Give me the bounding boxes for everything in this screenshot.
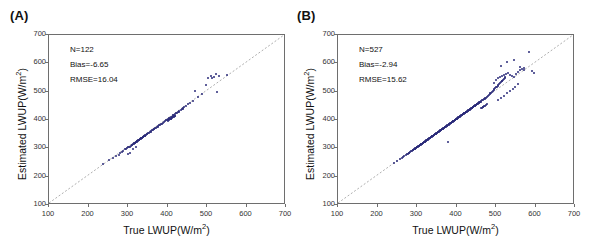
panel-b-y-tick-label: 400 <box>313 114 335 123</box>
panel-a-x-tick-label: 500 <box>191 209 221 218</box>
panel-b-stat-rmse: RMSE=15.62 <box>359 73 407 88</box>
panel-a-y-tick-label: 200 <box>24 171 46 180</box>
panel-b-x-tick-label: 200 <box>362 209 392 218</box>
panel-b-x-tick-mark <box>574 204 575 207</box>
panel-b-x-tick-label: 300 <box>401 209 431 218</box>
panel-b-x-tick-label: 700 <box>559 209 589 218</box>
panel-b-x-axis-title-main: True LWUP(W/m <box>412 224 491 236</box>
panel-b-data-point <box>513 76 515 78</box>
panel-a-x-axis-title: True LWUP(W/m2) <box>48 222 285 236</box>
panel-a-x-axis-title-main: True LWUP(W/m <box>123 224 202 236</box>
panel-b-y-tick-mark <box>334 91 337 92</box>
panel-a-data-point <box>192 100 194 102</box>
panel-a-y-tick-label: 600 <box>24 57 46 66</box>
panel-b-stat-n: N=527 <box>359 43 407 58</box>
figure-container: (A) Estimated LWUP(W/m2) N=122 Bias=-6.6… <box>0 0 594 246</box>
panel-b-y-axis-title-tail: ) <box>304 68 316 72</box>
panel-b-data-point <box>512 88 514 90</box>
panel-a-stat-rmse: RMSE=16.04 <box>70 73 118 88</box>
panel-a-x-tick-label: 600 <box>231 209 261 218</box>
panel-b-data-point <box>447 141 449 143</box>
panel-b-data-point <box>500 97 502 99</box>
panel-b-y-tick-label: 300 <box>313 142 335 151</box>
panel-b-y-tick-label: 100 <box>313 199 335 208</box>
panel-a-x-tick-label: 400 <box>152 209 182 218</box>
panel-a-y-tick-label: 400 <box>24 114 46 123</box>
panel-a-data-point <box>118 154 120 156</box>
panel-b-data-point <box>515 73 517 75</box>
panel-b-x-tick-mark <box>535 204 536 207</box>
panel-a-x-tick-mark <box>246 204 247 207</box>
panel-a-y-axis-title-sup: 2 <box>14 72 23 76</box>
panel-a-y-tick-mark <box>45 119 48 120</box>
panel-a-stats: N=122 Bias=-6.65 RMSE=16.04 <box>70 43 118 87</box>
panel-a-y-tick-mark <box>45 147 48 148</box>
panel-a-y-tick-label: 300 <box>24 142 46 151</box>
panel-b-x-tick-label: 100 <box>322 209 352 218</box>
panel-b-y-tick-label: 200 <box>313 171 335 180</box>
panel-b-y-tick-mark <box>334 34 337 35</box>
panel-b-data-point <box>517 71 519 73</box>
panel-a-data-point <box>205 84 207 86</box>
panel-a-x-tick-mark <box>127 204 128 207</box>
panel-b-y-tick-label: 600 <box>313 57 335 66</box>
panel-b-y-tick-label: 700 <box>313 29 335 38</box>
panel-b-x-tick-label: 500 <box>480 209 510 218</box>
panel-b-y-tick-mark <box>334 62 337 63</box>
panel-b-data-point <box>513 59 515 61</box>
panel-b-data-point <box>533 72 535 74</box>
panel-b-x-axis-title: True LWUP(W/m2) <box>337 222 574 236</box>
panel-a-y-tick-mark <box>45 34 48 35</box>
panel-b-x-tick-mark <box>456 204 457 207</box>
panel-a-y-tick-mark <box>45 91 48 92</box>
panel-a-data-point <box>112 157 114 159</box>
panel-b-x-tick-label: 600 <box>520 209 550 218</box>
panel-a-x-tick-label: 100 <box>33 209 63 218</box>
panel-a-x-tick-mark <box>285 204 286 207</box>
panel-b-x-tick-mark <box>495 204 496 207</box>
panel-b-data-point <box>528 51 530 53</box>
panel-b-data-point <box>519 66 521 68</box>
panel-b-stat-bias: Bias=-2.94 <box>359 58 407 73</box>
panel-b-x-axis-title-tail: ) <box>495 224 499 236</box>
panel-a-y-tick-mark <box>45 62 48 63</box>
panel-b-y-axis-title-sup: 2 <box>302 72 311 76</box>
panel-a-y-tick-label: 100 <box>24 199 46 208</box>
panel-a-data-point <box>132 148 134 150</box>
panel-b-x-tick-mark <box>377 204 378 207</box>
panel-b-y-tick-label: 500 <box>313 86 335 95</box>
panel-a-x-tick-mark <box>48 204 49 207</box>
panel-a-x-tick-label: 700 <box>270 209 300 218</box>
panel-b-data-point <box>503 95 505 97</box>
panel-a-y-tick-mark <box>45 176 48 177</box>
panel-b-x-tick-label: 400 <box>441 209 471 218</box>
panel-a-data-point <box>213 76 215 78</box>
panel-b-data-point <box>509 90 511 92</box>
panel-b-data-point <box>514 86 516 88</box>
panel-a-data-point <box>102 163 104 165</box>
panel-a-x-tick-mark <box>206 204 207 207</box>
panel-a-data-point <box>218 75 220 77</box>
panel-a-stat-n: N=122 <box>70 43 118 58</box>
panel-b-data-point <box>500 65 502 67</box>
panel-b-x-tick-mark <box>416 204 417 207</box>
panel-a-y-tick-label: 500 <box>24 86 46 95</box>
panel-a-x-tick-mark <box>167 204 168 207</box>
panel-a-x-axis-title-tail: ) <box>206 224 210 236</box>
panel-a-label: (A) <box>10 8 29 23</box>
panel-b-x-tick-mark <box>337 204 338 207</box>
panel-b-y-tick-mark <box>334 119 337 120</box>
panel-b: (B) Estimated LWUP(W/m2) N=527 Bias=-2.9… <box>297 0 594 246</box>
panel-a-y-axis-title-tail: ) <box>16 68 28 72</box>
panel-a: (A) Estimated LWUP(W/m2) N=122 Bias=-6.6… <box>0 0 297 246</box>
panel-b-y-tick-mark <box>334 176 337 177</box>
panel-b-stats: N=527 Bias=-2.94 RMSE=15.62 <box>359 43 407 87</box>
panel-a-y-tick-label: 700 <box>24 29 46 38</box>
panel-a-x-tick-mark <box>88 204 89 207</box>
panel-b-y-tick-mark <box>334 147 337 148</box>
panel-a-x-tick-label: 200 <box>73 209 103 218</box>
panel-a-x-tick-label: 300 <box>112 209 142 218</box>
panel-b-label: (B) <box>297 8 316 23</box>
panel-a-stat-bias: Bias=-6.65 <box>70 58 118 73</box>
